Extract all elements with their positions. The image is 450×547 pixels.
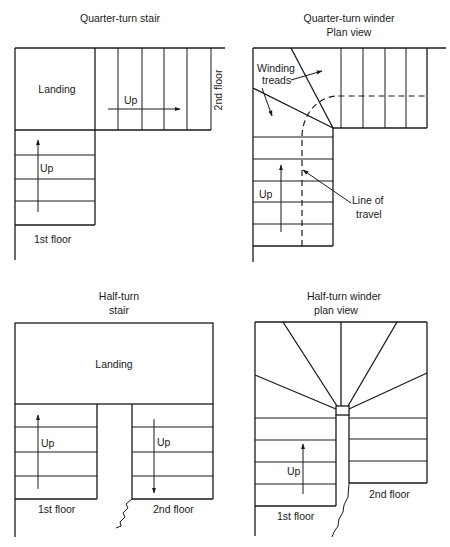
winding-label-line2: treads bbox=[262, 74, 291, 86]
stair-types-diagram: Quarter-turn stair Landing Up Up 2nd fl bbox=[0, 0, 450, 547]
quarter-turn-winder-panel: Quarter-turn winder Plan view bbox=[253, 12, 446, 262]
half-turn-winder-panel: Half-turn winder plan view bbox=[255, 290, 427, 537]
quarter-turn-winder-title-line2: Plan view bbox=[327, 26, 372, 38]
first-floor-label: 1st floor bbox=[34, 233, 72, 245]
first-floor-label: 1st floor bbox=[277, 510, 315, 522]
quarter-turn-winder-title-line1: Quarter-turn winder bbox=[303, 12, 395, 24]
winding-arrow-down-icon bbox=[262, 88, 272, 116]
half-turn-winder-title-line1: Half-turn winder bbox=[307, 290, 382, 302]
travel-label-line2: travel bbox=[356, 208, 382, 220]
second-floor-label: 2nd floor bbox=[153, 503, 194, 515]
landing-label: Landing bbox=[38, 83, 76, 95]
up-label-left: Up bbox=[41, 437, 55, 449]
half-turn-stair-panel: Half-turn stair Landing Up Up 1st flo bbox=[15, 290, 213, 537]
half-turn-stair-title-line2: stair bbox=[109, 304, 129, 316]
up-label: Up bbox=[259, 188, 273, 200]
break-line bbox=[116, 499, 132, 528]
travel-arrow-icon bbox=[303, 170, 351, 203]
lower-flight-treads bbox=[15, 155, 95, 225]
landing-label: Landing bbox=[95, 358, 133, 370]
first-floor-label: 1st floor bbox=[38, 503, 76, 515]
second-floor-label: 2nd floor bbox=[369, 488, 410, 500]
up-label-right: Up bbox=[157, 436, 171, 448]
right-flight-treads bbox=[132, 427, 213, 499]
newel-post bbox=[336, 406, 349, 415]
half-turn-stair-title-line1: Half-turn bbox=[99, 290, 139, 302]
travel-label-line1: Line of bbox=[352, 194, 384, 206]
up-label-lower-flight: Up bbox=[40, 162, 54, 174]
quarter-turn-stair-panel: Quarter-turn stair Landing Up Up 2nd fl bbox=[15, 12, 225, 260]
up-label: Up bbox=[287, 465, 301, 477]
second-floor-label: 2nd floor bbox=[212, 69, 224, 110]
left-flight-treads bbox=[255, 418, 336, 506]
winding-tread-lines bbox=[253, 48, 333, 128]
half-turn-winder-title-line2: plan view bbox=[314, 304, 358, 316]
upper-flight-treads bbox=[341, 48, 427, 128]
winding-label-line1: Winding bbox=[257, 62, 295, 74]
left-flight-treads bbox=[15, 427, 97, 499]
quarter-turn-stair-title: Quarter-turn stair bbox=[80, 12, 160, 24]
right-flight-treads bbox=[118, 48, 211, 130]
winder-radial-treads bbox=[255, 322, 427, 409]
up-label-right-flight: Up bbox=[124, 94, 138, 106]
right-flight-treads bbox=[349, 418, 427, 483]
break-line bbox=[332, 483, 349, 537]
